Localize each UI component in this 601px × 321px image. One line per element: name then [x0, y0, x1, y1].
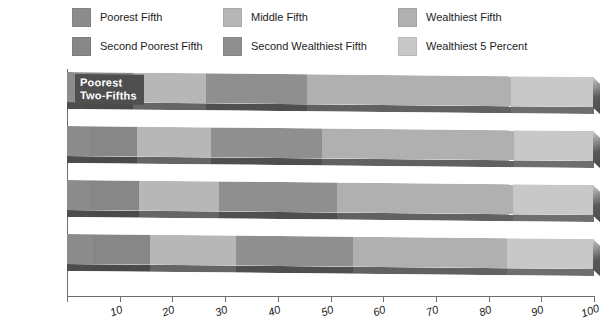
- x-axis-tick-label: 20: [161, 303, 177, 318]
- bar-segment[interactable]: [139, 181, 220, 212]
- bar-segment[interactable]: [67, 234, 93, 264]
- bar-segment-shadow: [67, 264, 93, 271]
- bar-end-cap: [593, 77, 600, 114]
- x-axis-tick: [225, 296, 226, 302]
- stacked-bar-1935-1936: [67, 126, 594, 175]
- x-axis-tick: [541, 296, 542, 302]
- bar-segment-shadow: [219, 211, 337, 219]
- bar-segment[interactable]: [236, 236, 353, 267]
- bar-segment-shadow: [67, 156, 89, 163]
- x-axis-tick: [278, 296, 279, 302]
- legend-label-second-wealthiest-fifth: Second Wealthiest Fifth: [251, 41, 367, 52]
- bar-segment[interactable]: [511, 76, 594, 107]
- bar-segment[interactable]: [67, 180, 89, 210]
- legend-label-wealthiest-5-percent: Wealthiest 5 Percent: [426, 41, 527, 52]
- x-axis-tick-label: 80: [477, 303, 493, 318]
- stacked-bar-1929: Poorest Two-Fifths: [67, 72, 594, 121]
- bar-segment[interactable]: [507, 238, 594, 269]
- x-axis-tick: [120, 296, 121, 302]
- legend-swatch-wealthiest-fifth: [398, 8, 417, 27]
- bar-segment-shadow: [511, 106, 594, 114]
- stacked-bar-1941: [67, 180, 594, 229]
- legend-label-second-poorest-fifth: Second Poorest Fifth: [100, 41, 203, 52]
- bar-segment[interactable]: [322, 128, 515, 160]
- x-axis-tick-label: 90: [530, 303, 546, 318]
- legend-swatch-poorest-fifth: [72, 8, 91, 27]
- legend-item-poorest-fifth: Poorest Fifth: [72, 8, 162, 27]
- x-axis-tick: [383, 296, 384, 302]
- bar-segment[interactable]: [513, 184, 594, 215]
- x-axis-tick: [436, 296, 437, 302]
- bar-end-cap: [593, 239, 600, 276]
- legend-item-second-wealthiest-fifth: Second Wealthiest Fifth: [223, 37, 367, 56]
- legend-item-second-poorest-fifth: Second Poorest Fifth: [72, 37, 203, 56]
- x-axis-tick-label: 100: [579, 302, 600, 320]
- bar-segment-shadow: [514, 160, 594, 168]
- bar-segment[interactable]: [353, 237, 507, 268]
- x-axis-tick: [331, 296, 332, 302]
- bar-segment-shadow: [137, 157, 211, 165]
- legend-swatch-wealthiest-5-percent: [398, 37, 417, 56]
- bar-segment[interactable]: [67, 126, 89, 156]
- bar-segment[interactable]: [150, 235, 235, 266]
- bar-segment-shadow: [139, 211, 220, 219]
- bar-segment[interactable]: [307, 74, 510, 106]
- bar-segment-shadow: [150, 265, 235, 273]
- bar-segment-shadow: [353, 267, 507, 275]
- legend-swatch-second-poorest-fifth: [72, 37, 91, 56]
- chart-legend: Poorest Fifth Second Poorest Fifth Middl…: [68, 6, 592, 62]
- x-axis-tick: [172, 296, 173, 302]
- bar-segment-shadow: [93, 264, 150, 272]
- x-axis-tick-label: 70: [424, 303, 440, 318]
- x-axis-tick-label: 10: [108, 303, 124, 318]
- legend-label-poorest-fifth: Poorest Fifth: [100, 12, 162, 23]
- bar-segment[interactable]: [206, 73, 308, 104]
- x-axis-tick: [489, 296, 490, 302]
- bar-segment[interactable]: [514, 130, 594, 161]
- x-axis-tick-label: 60: [371, 303, 387, 318]
- bar-segment-shadow: [211, 157, 321, 165]
- legend-swatch-middle-fifth: [223, 8, 242, 27]
- legend-item-middle-fifth: Middle Fifth: [223, 8, 308, 27]
- bar-segment[interactable]: [93, 234, 150, 265]
- bar-segment-shadow: [89, 210, 139, 217]
- annotation-poorest-two-fifths: Poorest Two-Fifths: [75, 74, 144, 105]
- bar-segment[interactable]: [211, 127, 321, 158]
- x-axis-tick-label: 30: [213, 303, 229, 318]
- legend-label-middle-fifth: Middle Fifth: [251, 12, 308, 23]
- bar-segment[interactable]: [337, 183, 513, 215]
- bar-segment[interactable]: [219, 181, 337, 212]
- bar-segment-shadow: [236, 266, 353, 274]
- x-axis-tick-label: 50: [319, 303, 335, 318]
- bar-segment-shadow: [513, 214, 594, 222]
- bar-segment-shadow: [507, 268, 594, 276]
- bar-end-cap: [593, 185, 600, 222]
- x-axis: 102030405060708090100: [0, 296, 598, 321]
- bar-segment-shadow: [307, 104, 510, 113]
- bar-segment-shadow: [322, 158, 515, 167]
- x-axis-tick-label: 40: [266, 303, 282, 318]
- legend-label-wealthiest-fifth: Wealthiest Fifth: [426, 12, 502, 23]
- stacked-bar-1944: [67, 234, 594, 283]
- bar-segment-shadow: [67, 210, 89, 217]
- bar-segment-shadow: [337, 213, 513, 222]
- bar-segment-shadow: [89, 156, 137, 163]
- legend-swatch-second-wealthiest-fifth: [223, 37, 242, 56]
- bar-segment[interactable]: [89, 180, 139, 210]
- x-axis-tick: [594, 296, 595, 302]
- plot-area: 1929 Poorest Two-Fifths 1935–1936 1941 1…: [0, 64, 598, 321]
- bar-segment[interactable]: [89, 126, 137, 156]
- bar-segment-shadow: [206, 103, 308, 111]
- bar-end-cap: [593, 131, 600, 168]
- legend-item-wealthiest-fifth: Wealthiest Fifth: [398, 8, 502, 27]
- legend-item-wealthiest-5-percent: Wealthiest 5 Percent: [398, 37, 527, 56]
- bar-segment[interactable]: [137, 127, 211, 158]
